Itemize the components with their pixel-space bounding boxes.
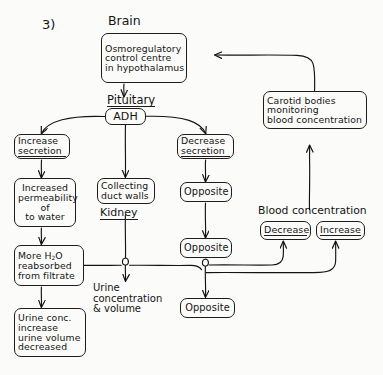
question-number: 3) xyxy=(42,18,55,32)
node-collecting-duct-walls[interactable]: Collecting duct walls xyxy=(97,178,155,204)
node-urine-result[interactable]: Urine conc. increase urine volume decrea… xyxy=(14,308,86,357)
label-brain: Brain xyxy=(108,14,141,27)
node-more-water-reabsorbed[interactable]: More H2O reabsorbed from filtrate xyxy=(14,245,84,286)
node-decrease-secretion[interactable]: Decrease secretion xyxy=(177,134,234,159)
label-kidney: Kidney xyxy=(100,207,138,220)
node-blood-concentration-decrease[interactable]: Decrease xyxy=(260,221,311,240)
label-urine-concentration-and-volume: Urine concentration & volume xyxy=(93,283,162,315)
node-osmoregulatory-control-centre[interactable]: Osmoregulatory control centre in hypotha… xyxy=(101,33,187,83)
node-blood-concentration-increase[interactable]: Increase xyxy=(316,221,365,240)
label-pituitary: Pituitary xyxy=(107,94,155,107)
node-opposite-bottom[interactable]: Opposite xyxy=(180,298,235,318)
node-carotid-bodies[interactable]: Carotid bodies monitoring blood concentr… xyxy=(263,91,367,129)
node-opposite-right-2[interactable]: Opposite xyxy=(180,238,232,258)
label-blood-concentration: Blood concentration xyxy=(258,205,367,216)
handwritten-flowchart-page: 3) Brain Osmoregulatory control centre i… xyxy=(0,0,383,375)
node-increase-secretion[interactable]: Increase secretion xyxy=(14,134,70,159)
node-adh[interactable]: ADH xyxy=(105,108,146,125)
node-increased-permeability[interactable]: Increased permeability of to water xyxy=(14,178,76,227)
node-opposite-right-1[interactable]: Opposite xyxy=(180,182,232,202)
